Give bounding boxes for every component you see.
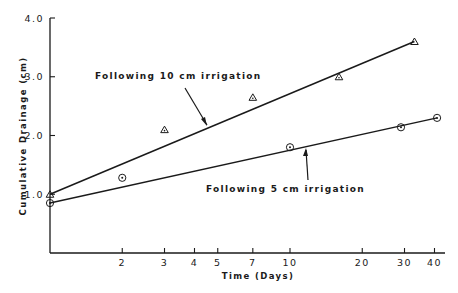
triangle-marker bbox=[411, 38, 419, 45]
circle-marker-dot bbox=[436, 117, 438, 119]
annotation-10cm: Following 10 cm irrigation bbox=[95, 71, 262, 81]
x-tick-label: 2 bbox=[118, 257, 126, 268]
circle-marker-dot bbox=[289, 146, 291, 148]
x-axis-label: Time (Days) bbox=[222, 271, 295, 281]
triangle-marker bbox=[249, 94, 257, 101]
annotation-5cm: Following 5 cm irrigation bbox=[206, 184, 365, 194]
x-tick-label: 30 bbox=[397, 257, 412, 268]
y-axis-label: Cumulative Drainage (cm) bbox=[18, 57, 28, 216]
x-tick-label: 20 bbox=[355, 257, 370, 268]
fit-line-10cm bbox=[50, 42, 414, 195]
x-tick-label: 4 bbox=[191, 257, 199, 268]
triangle-dot bbox=[164, 130, 166, 132]
y-tick-label: 4.0 bbox=[24, 13, 44, 24]
arrowhead-5cm bbox=[303, 148, 308, 156]
x-tick-label: 3 bbox=[161, 257, 169, 268]
triangle-dot bbox=[252, 98, 254, 100]
x-tick-label: 40 bbox=[427, 257, 442, 268]
data-markers bbox=[46, 38, 440, 207]
circle-marker-dot bbox=[49, 202, 51, 204]
fit-lines bbox=[50, 42, 437, 204]
circle-marker-dot bbox=[121, 177, 123, 179]
x-tick-label: 10 bbox=[282, 257, 297, 268]
x-tick-label: 5 bbox=[214, 257, 222, 268]
x-ticks: 2345710203040 bbox=[118, 248, 442, 268]
arrowhead-10cm bbox=[201, 117, 207, 126]
triangle-marker bbox=[161, 126, 169, 133]
drainage-chart: 1.02.03.04.0 2345710203040 Cumulative Dr… bbox=[0, 0, 458, 293]
x-tick-label: 7 bbox=[249, 257, 257, 268]
circle-marker-dot bbox=[400, 126, 402, 128]
triangle-dot bbox=[338, 77, 340, 79]
